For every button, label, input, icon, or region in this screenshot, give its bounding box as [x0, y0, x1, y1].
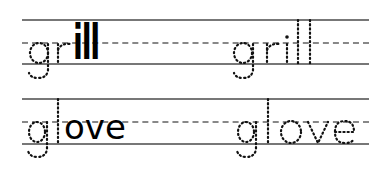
row1-example-solid-letters: ill: [73, 18, 99, 66]
traced-letters: [0, 0, 389, 172]
row2-example-solid-letters: ove: [64, 110, 126, 144]
